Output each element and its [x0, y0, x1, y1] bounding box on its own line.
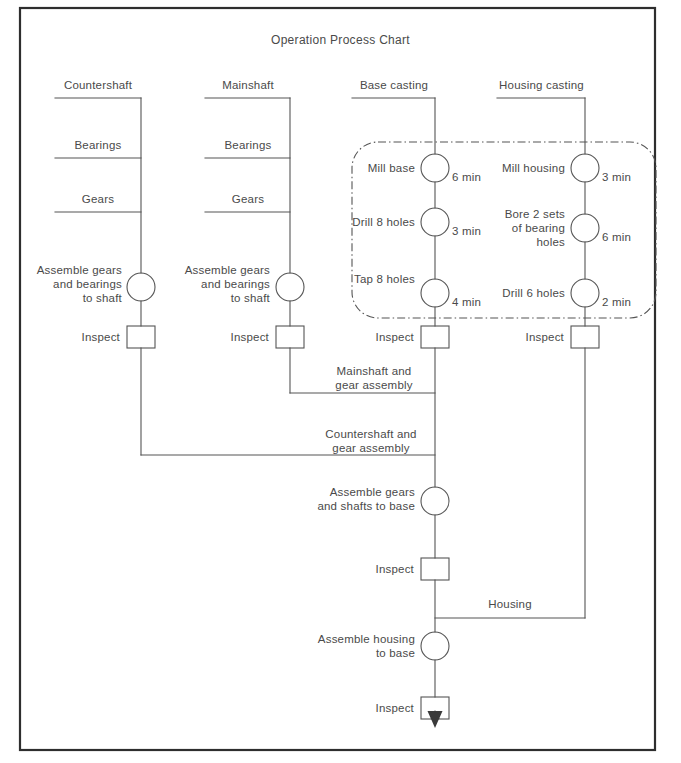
column-header-housing-casting: Housing casting — [497, 78, 586, 92]
inspect-label-c1: Inspect — [42, 330, 120, 344]
operation-label-drill-6-holes: Drill 6 holes — [484, 286, 565, 300]
operation-label-assemble-housing-to-base: Assemble housing to base — [306, 632, 415, 660]
material-label-mainshaft-bearings: Bearings — [205, 138, 291, 152]
material-label-mainshaft-gears: Gears — [205, 192, 291, 206]
inspect-node-c3 — [421, 326, 449, 348]
operation-label-mill-housing: Mill housing — [484, 161, 565, 175]
operation-label-mill-base: Mill base — [340, 161, 415, 175]
operation-time-bore-bearing-holes: 6 min — [602, 230, 662, 244]
operation-node-drill-8-holes — [421, 208, 449, 236]
operation-node-mill-housing — [571, 154, 599, 182]
operation-node-bore-bearing-holes — [571, 214, 599, 242]
operation-label-c2-assemble: Assemble gears and bearings to shaft — [170, 263, 270, 305]
operation-process-chart: Operation Process Chart Countershaft Bea… — [0, 0, 681, 763]
merge-label-housing: Housing — [462, 597, 558, 611]
inspect-label-assembly-1: Inspect — [336, 562, 414, 576]
operation-time-drill-6-holes: 2 min — [602, 295, 662, 309]
inspect-label-assembly-2: Inspect — [336, 701, 414, 715]
inspect-node-c2 — [276, 326, 304, 348]
operation-node-tap-8-holes — [421, 279, 449, 307]
column-header-countershaft: Countershaft — [55, 78, 141, 92]
operation-time-mill-housing: 3 min — [602, 170, 662, 184]
operation-label-drill-8-holes: Drill 8 holes — [334, 215, 415, 229]
operation-node-assemble-gears-shafts — [421, 487, 449, 515]
column-header-base-casting: Base casting — [352, 78, 436, 92]
inspect-node-assembly-1 — [421, 558, 449, 580]
column-header-mainshaft: Mainshaft — [205, 78, 291, 92]
merge-label-countershaft-gear-assembly: Countershaft and gear assembly — [312, 427, 430, 455]
inspect-label-c3: Inspect — [336, 330, 414, 344]
operation-node-c2-assemble — [276, 273, 304, 301]
material-label-countershaft-bearings: Bearings — [55, 138, 141, 152]
inspect-label-c4: Inspect — [486, 330, 564, 344]
operation-label-bore-bearing-holes: Bore 2 sets of bearing holes — [478, 207, 565, 249]
material-label-countershaft-gears: Gears — [55, 192, 141, 206]
operation-node-drill-6-holes — [571, 279, 599, 307]
page-title: Operation Process Chart — [0, 33, 681, 47]
inspect-node-c4 — [571, 326, 599, 348]
operation-label-tap-8-holes: Tap 8 holes — [334, 272, 415, 286]
inspect-label-c2: Inspect — [191, 330, 269, 344]
operation-node-mill-base — [421, 154, 449, 182]
operation-node-c1-assemble — [127, 273, 155, 301]
operation-label-c1-assemble: Assemble gears and bearings to shaft — [22, 263, 122, 305]
operation-node-assemble-housing — [421, 632, 449, 660]
merge-label-mainshaft-gear-assembly: Mainshaft and gear assembly — [318, 364, 430, 392]
operation-label-assemble-gears-shafts-to-base: Assemble gears and shafts to base — [300, 485, 415, 513]
inspect-node-c1 — [127, 326, 155, 348]
